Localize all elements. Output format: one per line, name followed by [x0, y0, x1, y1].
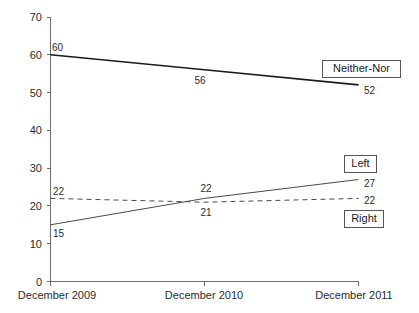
data-label-left-2011: 27 — [364, 178, 376, 189]
x-tick-label-december-2011: December 2011 — [315, 289, 392, 301]
data-label-neither-nor-2009: 60 — [52, 42, 64, 53]
x-tick-label-december-2009: December 2009 — [18, 289, 96, 301]
data-label-right-2009: 22 — [53, 186, 65, 197]
legend-item-left[interactable]: Left — [345, 156, 377, 173]
series-line-right — [51, 198, 359, 202]
legend-label-neither-nor: Neither-Nor — [333, 62, 390, 74]
y-tick-label-30: 30 — [30, 162, 42, 174]
y-tick-label-20: 20 — [30, 200, 42, 212]
legend-label-left: Left — [351, 157, 369, 169]
y-tick-label-60: 60 — [30, 49, 42, 61]
data-label-left-2009: 15 — [53, 228, 65, 239]
y-tick-label-40: 40 — [30, 124, 42, 136]
line-chart-container: 0 10 20 30 40 50 60 70 December 2009 Dec… — [0, 0, 419, 313]
data-label-neither-nor-2010: 56 — [194, 75, 206, 86]
y-tick-label-0: 0 — [36, 276, 42, 288]
legend-item-neither-nor[interactable]: Neither-Nor — [323, 61, 401, 78]
data-label-neither-nor-2011: 52 — [364, 85, 376, 96]
y-tick-label-50: 50 — [30, 87, 42, 99]
legend-item-right[interactable]: Right — [345, 211, 384, 228]
chart-plot-area: 0 10 20 30 40 50 60 70 December 2009 Dec… — [0, 0, 419, 313]
y-axis-ticks — [47, 17, 51, 282]
x-axis-ticks — [51, 282, 359, 286]
x-tick-label-december-2010: December 2010 — [165, 289, 243, 301]
data-label-right-2010: 21 — [200, 207, 212, 218]
legend-label-right: Right — [351, 212, 377, 224]
y-tick-label-70: 70 — [30, 11, 42, 23]
y-tick-label-10: 10 — [30, 238, 42, 250]
data-label-left-2010: 22 — [200, 183, 212, 194]
data-label-right-2011: 22 — [364, 195, 376, 206]
